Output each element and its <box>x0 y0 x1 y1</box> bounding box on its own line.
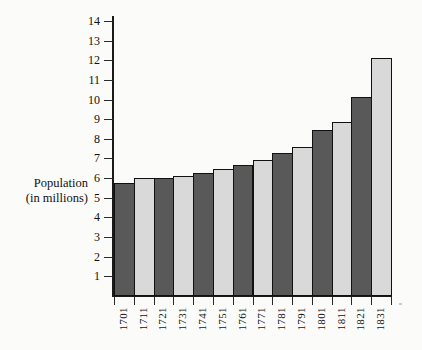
x-tick-label-1831: 1831 <box>375 307 386 331</box>
bar-1811 <box>332 122 353 296</box>
x-tick-label-1721: 1721 <box>157 307 168 331</box>
y-tick-label-2: 2 <box>74 251 100 263</box>
x-tick-label-1771: 1771 <box>256 307 267 331</box>
stray-speck <box>399 303 402 305</box>
y-tick-7 <box>104 158 113 159</box>
bar-1821 <box>351 97 372 296</box>
y-tick-10 <box>104 100 113 101</box>
bar-1741 <box>193 173 214 296</box>
y-tick-2 <box>104 257 113 258</box>
bar-1771 <box>253 160 274 296</box>
bar-1731 <box>173 176 194 296</box>
bar-1791 <box>292 147 313 296</box>
x-tick-label-1811: 1811 <box>336 307 347 330</box>
plot-area <box>113 18 391 296</box>
y-tick-4 <box>104 217 113 218</box>
x-tick-9 <box>292 297 293 305</box>
x-tick-label-1701: 1701 <box>118 307 129 331</box>
x-tick-label-1821: 1821 <box>355 307 366 331</box>
bar-1831 <box>371 58 392 296</box>
y-tick-5 <box>104 198 113 199</box>
bar-1701 <box>114 183 135 296</box>
x-tick-4 <box>193 297 194 305</box>
y-tick-label-3: 3 <box>74 231 100 243</box>
y-tick-label-6: 6 <box>74 172 100 184</box>
x-tick-label-1791: 1791 <box>296 307 307 331</box>
y-tick-label-13: 13 <box>74 35 100 47</box>
y-tick-9 <box>104 119 113 120</box>
population-bar-chart: Population (in millions) 141312111098765… <box>0 0 422 350</box>
bar-1751 <box>213 169 234 296</box>
bar-1761 <box>233 165 254 296</box>
x-tick-6 <box>233 297 234 305</box>
y-tick-label-7: 7 <box>74 152 100 164</box>
y-tick-11 <box>104 80 113 81</box>
y-tick-12 <box>104 60 113 61</box>
bar-1801 <box>312 130 333 296</box>
y-tick-label-8: 8 <box>74 133 100 145</box>
y-tick-label-11: 11 <box>74 74 100 86</box>
y-tick-label-5: 5 <box>74 192 100 204</box>
bar-1711 <box>134 178 155 296</box>
y-tick-13 <box>104 41 113 42</box>
x-tick-7 <box>253 297 254 305</box>
x-tick-label-1731: 1731 <box>177 307 188 331</box>
x-tick-2 <box>154 297 155 305</box>
y-tick-label-9: 9 <box>74 113 100 125</box>
y-tick-14 <box>104 21 113 22</box>
x-tick-label-1781: 1781 <box>276 307 287 331</box>
x-tick-13 <box>371 297 372 305</box>
x-tick-label-1761: 1761 <box>237 307 248 331</box>
y-tick-label-14: 14 <box>74 15 100 27</box>
y-tick-3 <box>104 237 113 238</box>
y-tick-1 <box>104 276 113 277</box>
x-tick-label-1711: 1711 <box>138 307 149 330</box>
x-tick-1 <box>134 297 135 305</box>
x-tick-label-1801: 1801 <box>316 307 327 331</box>
x-tick-label-1741: 1741 <box>197 307 208 331</box>
x-tick-0 <box>114 297 115 305</box>
x-tick-14 <box>391 297 392 305</box>
x-tick-10 <box>312 297 313 305</box>
y-tick-8 <box>104 139 113 140</box>
x-tick-5 <box>213 297 214 305</box>
x-tick-8 <box>272 297 273 305</box>
x-tick-12 <box>351 297 352 305</box>
x-tick-label-1751: 1751 <box>217 307 228 331</box>
bar-1721 <box>154 178 175 296</box>
x-tick-11 <box>332 297 333 305</box>
y-tick-label-4: 4 <box>74 211 100 223</box>
y-tick-6 <box>104 178 113 179</box>
x-tick-3 <box>173 297 174 305</box>
y-tick-label-10: 10 <box>74 94 100 106</box>
y-tick-label-12: 12 <box>74 54 100 66</box>
bar-1781 <box>272 153 293 296</box>
y-tick-label-1: 1 <box>74 270 100 282</box>
